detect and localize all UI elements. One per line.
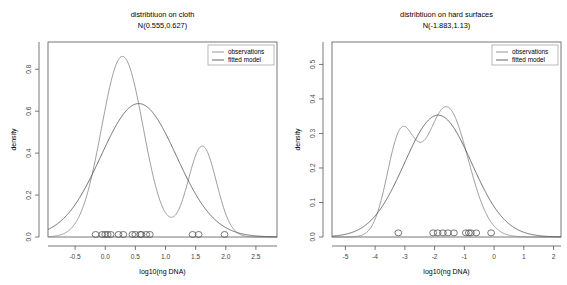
x-tick-label: 2.5	[251, 253, 260, 260]
rug-observation-point	[92, 231, 99, 237]
curve-observations	[48, 56, 277, 237]
y-tick-label: 0.6	[25, 106, 32, 115]
rug-group	[92, 231, 228, 237]
panel-cloth: distribtiuon on clothN(0.555,0.627)-0.50…	[0, 0, 284, 285]
legend-label-observations: observations	[512, 48, 548, 55]
x-tick-label: 0	[492, 253, 496, 260]
rug-observation-point	[120, 231, 127, 237]
legend-label-fitted-model: fitted model	[228, 56, 261, 63]
legend-label-observations: observations	[228, 48, 264, 55]
x-axis: -0.50.00.51.01.52.02.5log10(ng DNA)	[48, 246, 277, 276]
x-axis: -5-4-3-2-1012log10(ng DNA)	[332, 246, 561, 276]
x-tick-label: 0.5	[131, 253, 140, 260]
chart-title: distribtiuon on hard surfaces	[400, 10, 493, 19]
x-tick-label: 1	[521, 253, 525, 260]
x-tick-label: -1	[461, 253, 467, 260]
density-plot-figure: distribtiuon on clothN(0.555,0.627)-0.50…	[0, 0, 567, 285]
x-tick-label: -2	[431, 253, 437, 260]
x-tick-label: 2	[551, 253, 555, 260]
y-axis-label: density	[294, 128, 302, 151]
plot-right: distribtiuon on hard surfacesN(-1.883,1.…	[284, 0, 567, 285]
rug-observation-point	[472, 230, 479, 236]
rug-observation-point	[221, 231, 228, 237]
chart-subtitle: N(0.555,0.627)	[138, 21, 187, 30]
plot-frame	[332, 42, 561, 237]
curve-fitted-model	[332, 115, 561, 237]
x-tick-label: -5	[342, 253, 348, 260]
legend: observationsfitted model	[208, 45, 274, 65]
x-tick-label: -4	[372, 253, 378, 260]
rug-observation-point	[487, 230, 494, 236]
rug-observation-point	[394, 230, 401, 236]
legend: observationsfitted model	[492, 45, 558, 65]
y-tick-label: 0.8	[25, 64, 32, 73]
x-axis-label: log10(ng DNA)	[423, 268, 469, 276]
y-tick-label: 0.2	[25, 190, 32, 199]
x-tick-label: 1.5	[191, 253, 200, 260]
curve-observations	[332, 107, 561, 237]
x-tick-label: 1.0	[161, 253, 170, 260]
plot-left: distribtiuon on clothN(0.555,0.627)-0.50…	[0, 0, 284, 285]
x-tick-label: 0.0	[101, 253, 110, 260]
panel-hard-surfaces: distribtiuon on hard surfacesN(-1.883,1.…	[284, 0, 567, 285]
x-tick-label: -3	[401, 253, 407, 260]
y-tick-label: 0.0	[25, 232, 32, 241]
y-axis: 0.00.10.20.30.40.5density	[294, 42, 323, 242]
y-tick-label: 0.4	[309, 94, 316, 103]
y-tick-label: 0.4	[25, 148, 32, 157]
y-axis-label: density	[10, 128, 18, 151]
x-axis-label: log10(ng DNA)	[139, 268, 185, 276]
y-tick-label: 0.1	[309, 198, 316, 207]
y-tick-label: 0.5	[309, 60, 316, 69]
x-tick-label: -0.5	[69, 253, 81, 260]
x-tick-label: 2.0	[221, 253, 230, 260]
y-tick-label: 0.2	[309, 163, 316, 172]
chart-subtitle: N(-1.883,1.13)	[422, 21, 470, 30]
chart-title: distribtiuon on cloth	[131, 10, 195, 19]
legend-label-fitted-model: fitted model	[512, 56, 545, 63]
y-tick-label: 0.3	[309, 129, 316, 138]
y-axis: 0.00.20.40.60.8density	[10, 42, 39, 242]
rug-group	[394, 230, 494, 236]
curve-fitted-model	[48, 104, 277, 237]
y-tick-label: 0.0	[309, 232, 316, 241]
